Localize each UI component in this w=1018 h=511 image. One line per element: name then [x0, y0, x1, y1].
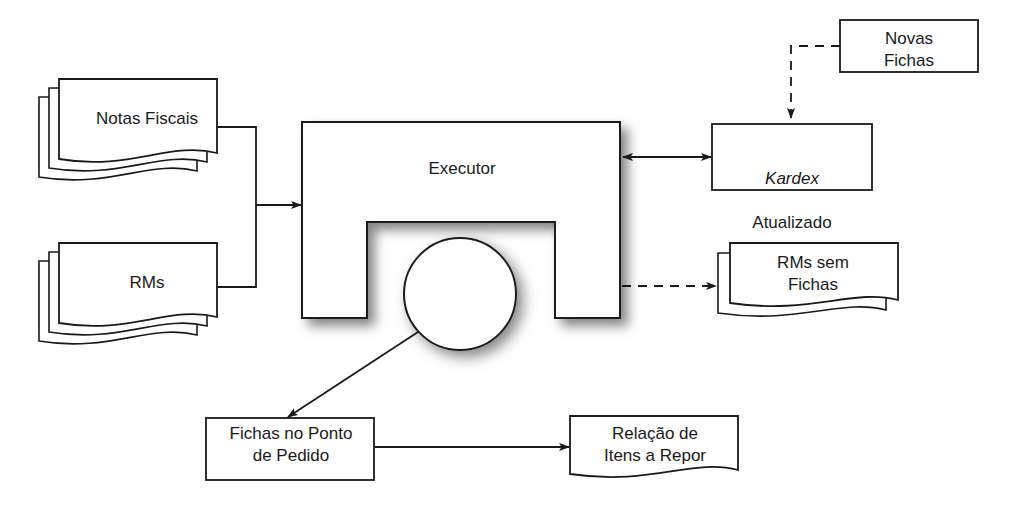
node-kardex-atualizado[interactable]	[712, 124, 872, 190]
node-novas-fichas[interactable]	[840, 20, 978, 72]
node-relacao-itens-repor[interactable]	[570, 416, 738, 477]
connector-circle-to-fichas-ponto	[288, 332, 418, 417]
node-circle[interactable]	[404, 238, 516, 350]
connector-rms-to-bus	[217, 205, 256, 287]
notas-fiscais-sheet-front	[59, 79, 217, 162]
node-rms-sem-fichas[interactable]	[718, 243, 898, 316]
diagram-canvas: Notas Fiscais RMs Executor Novas Fichas …	[0, 0, 1018, 511]
rms-sheet-front	[59, 243, 217, 326]
connector-novas-fichas-to-kardex	[791, 46, 840, 118]
node-rms[interactable]	[39, 243, 217, 344]
rms-sem-fichas-sheet-front	[730, 243, 898, 306]
connector-notas-to-bus	[217, 127, 256, 205]
diagram-graphics	[0, 0, 1018, 511]
node-notas-fiscais[interactable]	[39, 79, 217, 180]
node-fichas-ponto-pedido[interactable]	[206, 418, 374, 480]
